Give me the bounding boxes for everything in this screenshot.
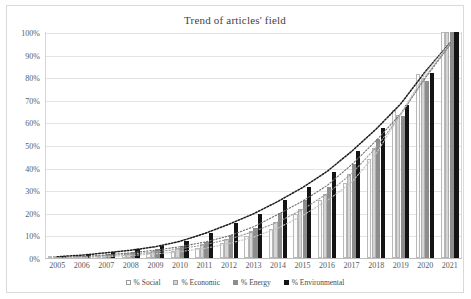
bar[interactable] xyxy=(283,200,287,258)
bar-group xyxy=(343,32,361,258)
y-axis-tick-label: 50% xyxy=(25,142,40,151)
x-axis-labels: 2005200620072008200920102011201220132014… xyxy=(45,261,462,275)
bar-group xyxy=(146,32,164,258)
bar[interactable] xyxy=(209,233,213,258)
gridline xyxy=(45,259,462,260)
bar-group xyxy=(416,32,434,258)
legend-item[interactable]: % Energy xyxy=(233,278,271,287)
bar[interactable] xyxy=(307,187,311,258)
x-axis-tick-label: 2018 xyxy=(368,261,384,270)
bar[interactable] xyxy=(86,254,90,258)
bar-group xyxy=(441,32,459,258)
chart-frame: Trend of articles' field 0%10%20%30%40%5… xyxy=(6,5,464,293)
legend-label: % Economic xyxy=(181,278,220,287)
y-axis-tick-label: 60% xyxy=(25,119,40,128)
legend-label: % Energy xyxy=(241,278,271,287)
x-axis-tick-label: 2014 xyxy=(270,261,286,270)
x-axis-tick-label: 2007 xyxy=(98,261,114,270)
bar-group xyxy=(73,32,91,258)
y-axis-tick-label: 40% xyxy=(25,164,40,173)
bar[interactable] xyxy=(405,105,409,258)
bar[interactable] xyxy=(332,172,336,258)
bar-group xyxy=(293,32,311,258)
legend-item[interactable]: % Economic xyxy=(173,278,220,287)
bar[interactable] xyxy=(381,128,385,258)
bar[interactable] xyxy=(111,252,115,258)
chart-title: Trend of articles' field xyxy=(7,14,463,26)
bar-group xyxy=(392,32,410,258)
legend-swatch-icon xyxy=(233,280,238,285)
bar[interactable] xyxy=(184,241,188,258)
bar[interactable] xyxy=(454,32,458,258)
y-axis-tick-label: 100% xyxy=(21,29,40,38)
x-axis-tick-label: 2010 xyxy=(172,261,188,270)
bar[interactable] xyxy=(258,214,262,258)
x-axis-tick-label: 2015 xyxy=(295,261,311,270)
plot-area: 0%10%20%30%40%50%60%70%80%90%100% xyxy=(45,32,462,259)
bar[interactable] xyxy=(62,256,66,258)
x-axis-tick-label: 2006 xyxy=(74,261,90,270)
x-axis-tick-label: 2005 xyxy=(49,261,65,270)
x-axis-tick-label: 2020 xyxy=(417,261,433,270)
bar-group xyxy=(97,32,115,258)
bar[interactable] xyxy=(135,249,139,258)
x-axis-tick-label: 2019 xyxy=(393,261,409,270)
bar-group xyxy=(171,32,189,258)
legend-label: % Social xyxy=(134,278,161,287)
y-axis-tick-label: 10% xyxy=(25,232,40,241)
y-axis-tick-label: 80% xyxy=(25,74,40,83)
y-axis-tick-label: 20% xyxy=(25,209,40,218)
bar-group xyxy=(367,32,385,258)
y-axis-tick-label: 30% xyxy=(25,187,40,196)
x-axis-tick-label: 2012 xyxy=(221,261,237,270)
x-axis-tick-label: 2011 xyxy=(197,261,213,270)
bar-group xyxy=(220,32,238,258)
legend-swatch-icon xyxy=(126,280,131,285)
legend-label: % Environmental xyxy=(292,278,345,287)
x-axis-tick-label: 2013 xyxy=(246,261,262,270)
x-axis-tick-label: 2016 xyxy=(319,261,335,270)
x-axis-tick-label: 2017 xyxy=(344,261,360,270)
y-axis-tick-label: 70% xyxy=(25,96,40,105)
legend-swatch-icon xyxy=(173,280,178,285)
bars-layer xyxy=(45,32,462,259)
bar-group xyxy=(269,32,287,258)
legend-item[interactable]: % Social xyxy=(126,278,161,287)
bar[interactable] xyxy=(430,73,434,258)
legend-item[interactable]: % Environmental xyxy=(284,278,345,287)
bar-group xyxy=(195,32,213,258)
bar[interactable] xyxy=(234,223,238,258)
chart-legend: % Social% Economic% Energy% Environmenta… xyxy=(7,278,463,287)
bar-group xyxy=(48,32,66,258)
x-axis-tick-label: 2008 xyxy=(123,261,139,270)
x-axis-tick-label: 2021 xyxy=(442,261,458,270)
x-axis-tick-label: 2009 xyxy=(147,261,163,270)
y-axis-tick-label: 0% xyxy=(29,255,40,264)
legend-swatch-icon xyxy=(284,280,289,285)
bar-group xyxy=(244,32,262,258)
bar[interactable] xyxy=(160,246,164,258)
bar-group xyxy=(122,32,140,258)
bar[interactable] xyxy=(356,151,360,258)
y-axis-tick-label: 90% xyxy=(25,51,40,60)
bar-group xyxy=(318,32,336,258)
